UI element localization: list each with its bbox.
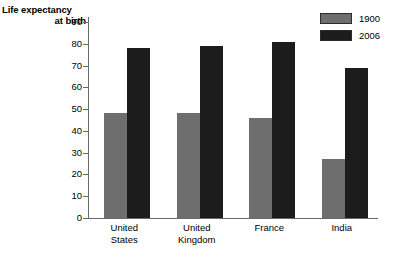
- y-axis-tick-0: [83, 218, 88, 219]
- axis-title-line-1: Life expectancy: [2, 4, 86, 15]
- bar-united-kingdom-2006: [200, 46, 223, 218]
- y-axis-tick-20: [83, 174, 88, 175]
- bar-india-2006: [345, 68, 368, 218]
- y-axis-tick-30: [83, 153, 88, 154]
- bar-chart: Life expectancy at birth 1900 2006 01020…: [0, 0, 412, 279]
- y-axis-tick-90: [83, 22, 88, 23]
- y-axis-tick-label-10: 10: [60, 191, 82, 201]
- y-axis-tick-60: [83, 87, 88, 88]
- y-axis-tick-label-90: 90: [60, 17, 82, 27]
- y-axis-tick-labels: 0102030405060708090: [60, 22, 82, 218]
- bar-united-states-1900: [104, 113, 127, 218]
- y-axis-tick-50: [83, 109, 88, 110]
- y-axis-tick-10: [83, 196, 88, 197]
- plot-area: [88, 22, 378, 218]
- y-axis-tick-label-50: 50: [60, 104, 82, 114]
- bar-united-states-2006: [127, 48, 150, 218]
- y-axis-tick-label-60: 60: [60, 82, 82, 92]
- x-axis-line: [88, 218, 378, 219]
- cut-off-caption: [4, 271, 408, 279]
- y-axis-tick-label-30: 30: [60, 148, 82, 158]
- bar-france-1900: [249, 118, 272, 218]
- y-axis-line: [88, 17, 89, 218]
- y-axis-tick-label-70: 70: [60, 61, 82, 71]
- y-axis-tick-40: [83, 131, 88, 132]
- bar-united-kingdom-1900: [177, 113, 200, 218]
- x-axis-label-line-2: Kingdom: [155, 234, 240, 246]
- x-axis-label-india: India: [300, 222, 385, 234]
- bar-india-1900: [322, 159, 345, 218]
- y-axis-tick-label-40: 40: [60, 126, 82, 136]
- y-axis-tick-label-20: 20: [60, 169, 82, 179]
- y-axis-tick-label-80: 80: [60, 39, 82, 49]
- bar-france-2006: [272, 42, 295, 218]
- y-axis-tick-80: [83, 44, 88, 45]
- y-axis-tick-label-0: 0: [60, 213, 82, 223]
- y-axis-tick-70: [83, 66, 88, 67]
- x-axis-label-line-1: India: [300, 222, 385, 234]
